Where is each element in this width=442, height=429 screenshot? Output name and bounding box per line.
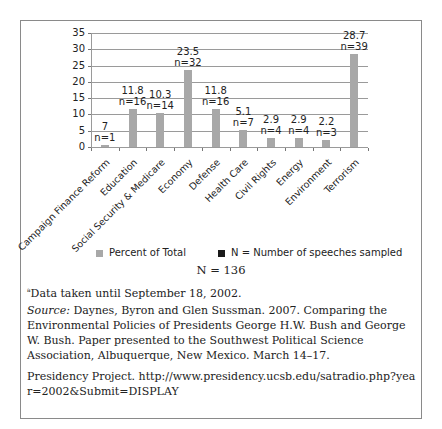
total-n: N = 136 [0,263,442,277]
legend-item-n: N = Number of speeches sampled [218,247,402,258]
category-label: Campaign Finance Reform [16,157,112,253]
y-tick-label: 30 [65,43,85,54]
x-tick [368,148,369,151]
data-label: 23.5n=32 [168,46,208,68]
bar [212,109,220,147]
data-label: 2.2n=3 [306,116,346,138]
y-tick-label: 20 [65,76,85,87]
bar [156,113,164,147]
bar-chart: 051015202530357n=1Campaign Finance Refor… [0,0,442,270]
bar [101,145,109,147]
x-tick [119,148,120,151]
bar [184,70,192,147]
source-label: Source: [27,304,70,317]
data-label: 7n=1 [85,121,125,143]
bar [350,54,358,147]
legend-swatch-gray [96,250,103,257]
bar [322,140,330,147]
data-label: 11.8n=16 [196,85,236,107]
x-tick [285,148,286,151]
bar [295,138,303,147]
x-tick [230,148,231,151]
gridline [91,49,368,50]
legend-label: Percent of Total [109,247,186,258]
x-tick [202,148,203,151]
legend-item-percent: Percent of Total [96,247,186,258]
x-tick [313,148,314,151]
y-tick-label: 25 [65,60,85,71]
legend-label: N = Number of speeches sampled [231,247,402,258]
gridline [91,82,368,83]
x-tick [174,148,175,151]
x-tick [257,148,258,151]
y-tick-label: 15 [65,92,85,103]
bar [129,109,137,147]
footnote: aData taken until September 18, 2002. [27,282,417,301]
x-tick [91,148,92,151]
legend-swatch-black [218,250,225,257]
footnote-text: Data taken until September 18, 2002. [31,287,242,300]
chart-legend: Percent of Total N = Number of speeches … [96,247,402,258]
data-label: 10.3n=14 [140,89,180,111]
source-text: Daynes, Byron and Glen Sussman. 2007. Co… [27,304,406,362]
source-citation: Source: Daynes, Byron and Glen Sussman. … [27,303,417,363]
y-tick-label: 0 [65,141,85,152]
gridline [91,66,368,67]
presidency-citation: Presidency Project. http://www.presidenc… [27,369,417,399]
y-tick-label: 10 [65,108,85,119]
x-tick [146,148,147,151]
y-tick-label: 35 [65,27,85,38]
bar [267,138,275,147]
bar [239,130,247,147]
data-label: 28.7n=39 [334,30,374,52]
x-tick [340,148,341,151]
y-tick-label: 5 [65,125,85,136]
gridline [91,33,368,34]
